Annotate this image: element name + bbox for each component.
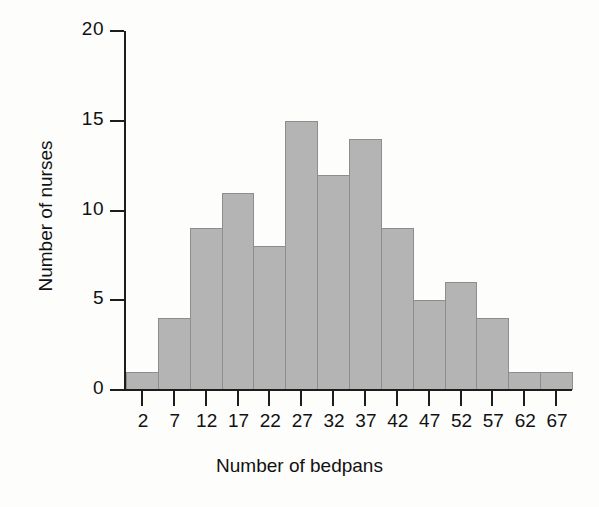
x-axis-tick bbox=[237, 391, 239, 406]
x-axis-tick bbox=[268, 391, 270, 406]
y-axis-title: Number of nurses bbox=[35, 106, 57, 326]
y-axis-tick bbox=[110, 299, 124, 301]
histogram-bar bbox=[253, 246, 286, 390]
x-axis-tick bbox=[555, 391, 557, 406]
x-axis-title: Number of bedpans bbox=[0, 455, 599, 477]
histogram-bar bbox=[317, 175, 350, 390]
histogram-bar bbox=[445, 282, 478, 390]
histogram-bar bbox=[476, 318, 509, 390]
x-axis-tick bbox=[491, 391, 493, 406]
histogram-bar bbox=[540, 372, 573, 390]
x-axis-tick bbox=[364, 391, 366, 406]
y-axis-tick bbox=[110, 120, 124, 122]
x-axis-tick bbox=[300, 391, 302, 406]
x-axis-tick bbox=[205, 391, 207, 406]
x-axis-tick bbox=[428, 391, 430, 406]
x-axis-tick bbox=[173, 391, 175, 406]
histogram-bar bbox=[349, 139, 382, 390]
y-axis-tick bbox=[110, 389, 124, 391]
plot-area bbox=[126, 31, 572, 390]
histogram-bar bbox=[126, 372, 159, 390]
histogram-bar bbox=[285, 121, 318, 390]
histogram-figure: 05101520 Number of nurses 27121722273237… bbox=[0, 0, 599, 507]
x-axis-line bbox=[124, 389, 572, 391]
histogram-bar bbox=[413, 300, 446, 390]
y-axis-tick bbox=[110, 30, 124, 32]
histogram-bar bbox=[190, 228, 223, 390]
x-axis-tick bbox=[460, 391, 462, 406]
x-axis-tick bbox=[523, 391, 525, 406]
y-axis-tick-label: 20 bbox=[44, 18, 104, 40]
x-axis-tick bbox=[332, 391, 334, 406]
histogram-bar bbox=[381, 228, 414, 390]
x-axis-tick bbox=[396, 391, 398, 406]
histogram-bar bbox=[222, 193, 255, 390]
histogram-bar bbox=[158, 318, 191, 390]
y-axis-tick bbox=[110, 210, 124, 212]
x-axis-tick bbox=[141, 391, 143, 406]
histogram-bar bbox=[508, 372, 541, 390]
y-axis-tick-label: 0 bbox=[44, 377, 104, 399]
x-axis-tick-label: 67 bbox=[537, 410, 577, 432]
